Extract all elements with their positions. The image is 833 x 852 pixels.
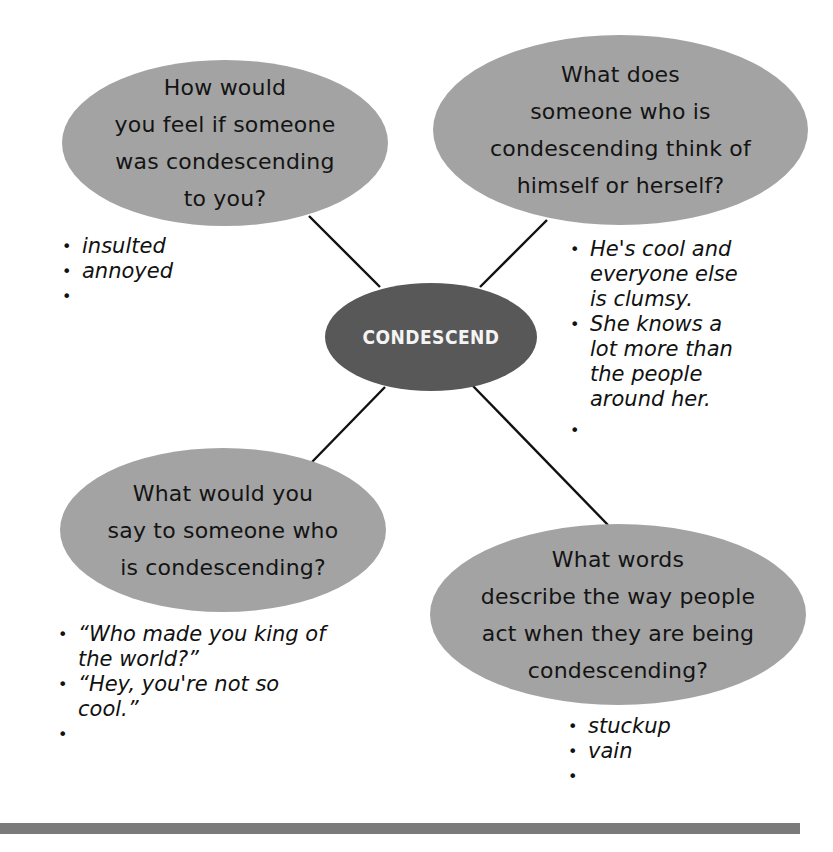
bullet-icon: • xyxy=(62,284,71,309)
bullet-icon: • xyxy=(568,764,577,789)
answer-list-describe: •stuckup •vain • xyxy=(566,714,671,789)
question-node-describe: What words describe the way people act w… xyxy=(430,524,806,705)
answer-list-feel: •insulted •annoyed • xyxy=(60,234,173,309)
question-node-say: What would you say to someone who is con… xyxy=(60,448,386,612)
answer-item: •He's cool and everyone else is clumsy. xyxy=(568,237,738,312)
bullet-icon: • xyxy=(568,714,577,739)
bullet-icon: • xyxy=(58,622,67,647)
center-concept: CONDESCEND xyxy=(325,283,537,391)
answer-item: •vain xyxy=(566,739,671,764)
question-text: What words describe the way people act w… xyxy=(481,541,755,689)
center-term: CONDESCEND xyxy=(363,326,500,348)
answer-item: •“Who made you king of the world?” xyxy=(56,622,326,672)
answer-item: •stuckup xyxy=(566,714,671,739)
bullet-icon: • xyxy=(570,418,579,443)
bullet-icon: • xyxy=(58,672,67,697)
answer-list-self-view: •He's cool and everyone else is clumsy. … xyxy=(568,237,738,443)
footer-divider xyxy=(0,823,800,834)
question-node-self-view: What does someone who is condescending t… xyxy=(433,35,808,225)
answer-item-blank: • xyxy=(568,418,738,443)
bullet-icon: • xyxy=(570,312,579,337)
answer-item-blank: • xyxy=(60,284,173,309)
answer-item: •insulted xyxy=(60,234,173,259)
connector-top-left xyxy=(309,216,380,287)
question-text: What would you say to someone who is con… xyxy=(108,475,339,586)
bullet-icon: • xyxy=(570,237,579,262)
connector-bottom-left xyxy=(312,387,385,462)
bullet-icon: • xyxy=(58,722,67,747)
bullet-icon: • xyxy=(62,259,71,284)
answer-item: •“Hey, you're not so cool.” xyxy=(56,672,326,722)
connector-top-right xyxy=(480,220,547,287)
answer-item-blank: • xyxy=(56,722,326,747)
answer-item: •annoyed xyxy=(60,259,173,284)
answer-list-say: •“Who made you king of the world?” •“Hey… xyxy=(56,622,326,747)
question-node-feel: How would you feel if someone was condes… xyxy=(62,60,388,226)
answer-item-blank: • xyxy=(566,764,671,789)
answer-item: •She knows a lot more than the people ar… xyxy=(568,312,738,412)
question-text: How would you feel if someone was condes… xyxy=(115,69,336,217)
question-text: What does someone who is condescending t… xyxy=(490,56,751,204)
bullet-icon: • xyxy=(568,739,577,764)
bullet-icon: • xyxy=(62,234,71,259)
